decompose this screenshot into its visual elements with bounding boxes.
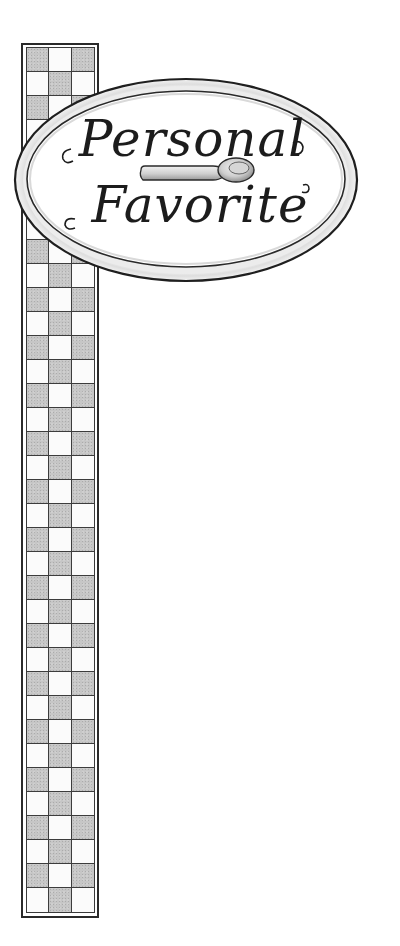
checker-square	[49, 384, 71, 408]
checker-square	[27, 816, 49, 840]
checker-square	[72, 528, 94, 552]
checker-square	[72, 336, 94, 360]
checker-square	[27, 744, 49, 768]
checker-square	[27, 624, 49, 648]
checker-square	[72, 792, 94, 816]
checker-square	[72, 432, 94, 456]
checker-square	[49, 864, 71, 888]
checker-square	[49, 816, 71, 840]
checker-square	[49, 288, 71, 312]
checker-square	[27, 576, 49, 600]
checker-square	[72, 816, 94, 840]
checker-square	[49, 600, 71, 624]
checker-square	[27, 408, 49, 432]
sign-title-line2: Favorite	[13, 177, 373, 233]
checker-square	[27, 552, 49, 576]
checker-square	[72, 648, 94, 672]
checker-square	[27, 360, 49, 384]
checker-square	[49, 504, 71, 528]
checker-square	[27, 600, 49, 624]
checker-square	[72, 360, 94, 384]
checker-square	[49, 480, 71, 504]
checker-square	[27, 336, 49, 360]
checker-square	[49, 528, 71, 552]
checker-square	[72, 840, 94, 864]
checker-square	[72, 552, 94, 576]
checker-square	[72, 384, 94, 408]
checker-square	[72, 288, 94, 312]
checker-square	[49, 576, 71, 600]
checker-square	[27, 696, 49, 720]
checker-square	[27, 432, 49, 456]
checker-square	[27, 648, 49, 672]
checker-square	[49, 336, 71, 360]
checker-square	[27, 720, 49, 744]
checker-square	[49, 720, 71, 744]
oval-sign: Personal Favorite	[13, 77, 359, 283]
checker-square	[49, 768, 71, 792]
checker-square	[27, 48, 49, 72]
checker-square	[72, 624, 94, 648]
checker-square	[72, 456, 94, 480]
checker-square	[72, 864, 94, 888]
checker-square	[27, 456, 49, 480]
checker-square	[72, 720, 94, 744]
checker-square	[72, 408, 94, 432]
checker-square	[72, 576, 94, 600]
checker-square	[49, 552, 71, 576]
checker-square	[49, 432, 71, 456]
sign-title-line1: Personal	[13, 111, 365, 167]
checker-square	[27, 504, 49, 528]
checker-square	[49, 888, 71, 912]
checker-square	[27, 288, 49, 312]
checker-square	[27, 672, 49, 696]
checker-square	[49, 744, 71, 768]
checker-square	[72, 696, 94, 720]
checker-square	[49, 456, 71, 480]
checker-square	[27, 792, 49, 816]
checker-square	[27, 480, 49, 504]
checker-square	[27, 864, 49, 888]
checker-square	[27, 384, 49, 408]
checker-square	[49, 792, 71, 816]
checker-square	[72, 600, 94, 624]
checker-square	[27, 840, 49, 864]
checker-square	[27, 888, 49, 912]
checker-square	[72, 744, 94, 768]
checker-square	[72, 312, 94, 336]
checker-square	[49, 648, 71, 672]
checker-square	[49, 840, 71, 864]
checker-square	[27, 768, 49, 792]
checker-square	[72, 888, 94, 912]
checker-square	[72, 48, 94, 72]
checker-square	[49, 624, 71, 648]
checker-square	[72, 672, 94, 696]
checker-square	[49, 696, 71, 720]
checker-square	[49, 360, 71, 384]
checker-square	[49, 312, 71, 336]
checker-square	[27, 312, 49, 336]
checker-square	[72, 504, 94, 528]
checker-square	[72, 768, 94, 792]
checker-square	[49, 672, 71, 696]
checker-square	[72, 480, 94, 504]
checker-square	[49, 48, 71, 72]
checker-square	[27, 528, 49, 552]
checker-square	[49, 408, 71, 432]
